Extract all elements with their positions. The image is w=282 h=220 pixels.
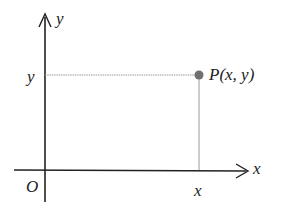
x-axis-label: x: [253, 160, 261, 177]
point-p: [195, 71, 204, 80]
point-p-label: P(x, y): [209, 66, 254, 83]
y-axis-label: y: [56, 10, 64, 27]
x-axis: [14, 170, 246, 171]
x-coordinate-label: x: [194, 182, 202, 199]
origin-label: O: [26, 178, 38, 195]
coordinate-plane: [0, 0, 282, 220]
y-coordinate-label: y: [27, 68, 35, 85]
